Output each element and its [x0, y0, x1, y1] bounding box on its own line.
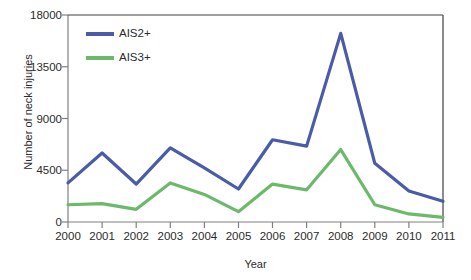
- legend-label: AIS2+: [119, 28, 151, 40]
- y-tick-label: 13500: [2, 61, 62, 73]
- y-tick-label: 0: [2, 216, 62, 228]
- y-tick-label: 9000: [2, 113, 62, 125]
- y-tick-marks: [62, 15, 68, 222]
- y-tick-label: 18000: [2, 9, 62, 21]
- x-tick-marks: [68, 222, 443, 228]
- chart-figure: Number of neck injuries 18000 13500 9000…: [0, 0, 471, 280]
- legend-swatch-icon: [86, 56, 114, 60]
- legend-swatch-icon: [86, 32, 114, 36]
- legend-item-ais3plus: AIS3+: [86, 52, 151, 64]
- x-axis-title: Year: [68, 258, 443, 270]
- line-series-ais3plus: [68, 150, 443, 218]
- legend-label: AIS3+: [119, 52, 151, 64]
- x-tick-label: 2011: [421, 230, 465, 242]
- y-tick-label: 4500: [2, 164, 62, 176]
- legend-item-ais2plus: AIS2+: [86, 28, 151, 40]
